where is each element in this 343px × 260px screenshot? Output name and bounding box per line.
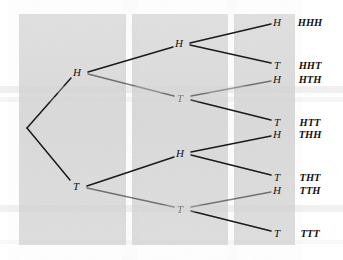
outcome-hth: HTH: [298, 74, 323, 85]
node-th: H: [175, 147, 185, 159]
outcome-tth: TTH: [300, 185, 322, 196]
outcome-htt: HTT: [299, 117, 322, 128]
scan-band-upper: [0, 86, 343, 93]
outcome-thh: THH: [299, 129, 323, 140]
leaf-ttt: T: [274, 227, 281, 239]
scan-band-bottom: [0, 240, 343, 244]
node-ht: T: [177, 92, 184, 104]
outcome-ttt: TTT: [300, 228, 320, 239]
leaf-hht: T: [274, 59, 281, 71]
outcome-tht: THT: [300, 172, 322, 183]
leaf-hhh: H: [272, 16, 282, 28]
outcome-hht: HHT: [298, 60, 322, 71]
tree-diagram-canvas: HTHTHTHTHTHTHT HHHHHTHTHHTTTHHTHTTTHTTT: [0, 0, 343, 260]
node-tt: T: [177, 203, 184, 215]
leaf-tth: H: [272, 184, 282, 196]
leaf-htt: T: [274, 116, 281, 128]
tree-diagram-figure: HTHTHTHTHTHTHT HHHHHTHTHHTTTHHTHTTTHTTT: [0, 0, 343, 260]
leaf-hth: H: [272, 73, 282, 85]
node-hh: H: [174, 37, 184, 49]
leaf-thh: H: [272, 128, 282, 140]
outcome-hhh: HHH: [297, 17, 323, 28]
node-h: H: [72, 66, 82, 78]
leaf-tht: T: [274, 171, 281, 183]
scan-band-lower: [0, 205, 343, 212]
node-t: T: [73, 180, 80, 192]
scan-band-upper-faint: [0, 97, 343, 102]
